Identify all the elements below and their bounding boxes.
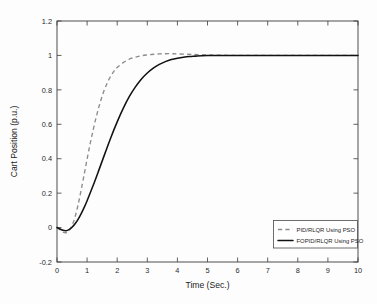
y-tick-label: 0.4 [42,154,52,163]
x-tick-label: 4 [175,266,179,275]
y-tick-label: 0.6 [42,120,52,129]
x-tick-label: 0 [55,266,59,275]
y-tick-label: 0.2 [42,189,52,198]
x-tick-label: 6 [236,266,240,275]
y-tick-label: -0.2 [39,258,52,267]
y-tick-label: 1.2 [42,17,52,26]
x-tick-label: 10 [354,266,362,275]
y-axis-title: Cart Position (p.u.) [9,106,19,178]
x-tick-label: 8 [296,266,300,275]
x-tick-label: 9 [326,266,330,275]
y-tick-label: 1 [48,51,52,60]
x-tick-label: 7 [266,266,270,275]
legend-box [274,221,358,249]
chart-legend: PID/RLQR Using PSO FOPID/RLQR Using PSO [274,221,364,249]
legend-label-fopid-rlqr: FOPID/RLQR Using PSO [297,238,364,244]
y-tick-label: 0.8 [42,86,52,95]
figure-container: 012345678910 -0.200.20.40.60.811.2 Time … [0,0,377,304]
x-tick-label: 1 [85,266,89,275]
x-axis-title: Time (Sec.) [185,280,229,290]
legend-label-pid-rlqr: PID/RLQR Using PSO [297,227,356,233]
x-tick-label: 2 [115,266,119,275]
x-tick-label: 5 [205,266,209,275]
x-tick-label: 3 [145,266,149,275]
y-tick-label: 0 [48,223,52,232]
step-response-chart: 012345678910 -0.200.20.40.60.811.2 Time … [0,0,377,304]
